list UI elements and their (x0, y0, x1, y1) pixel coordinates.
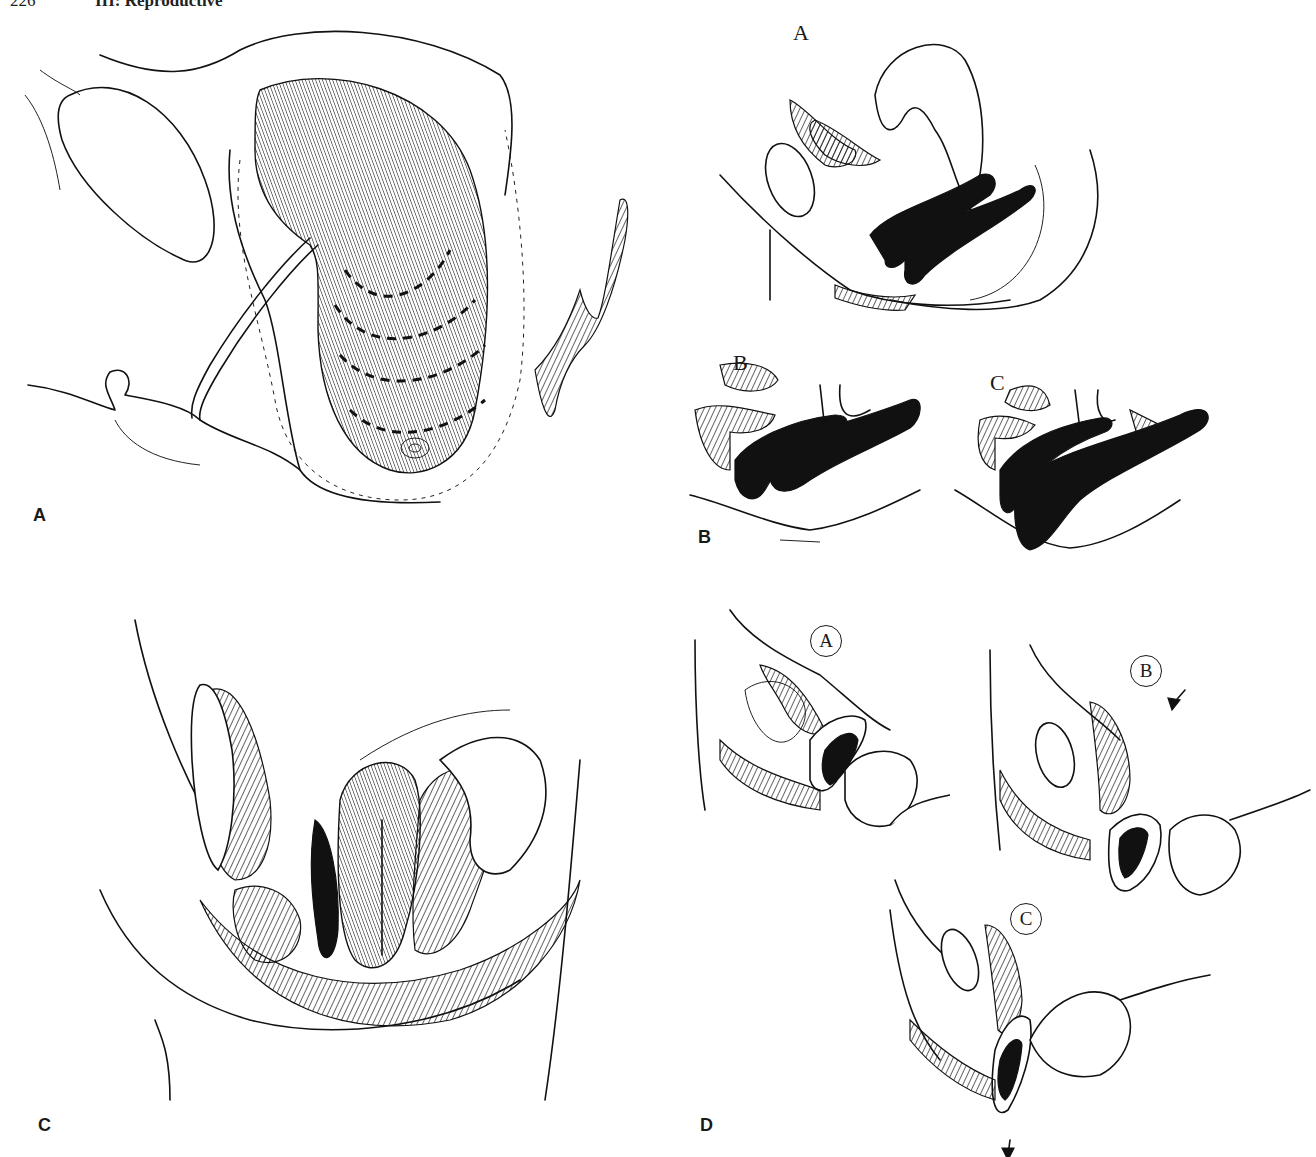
panel-c-drawing (0, 580, 660, 1157)
panel-d-illustration: A B C D (690, 580, 1316, 1157)
panel-d-sublabel-c: C (1010, 903, 1042, 935)
panel-label-d: D (700, 1115, 713, 1136)
panel-b-sub-a-drawing (720, 45, 1098, 311)
panel-b-sub-b-drawing (690, 363, 920, 542)
panel-label-a: A (33, 505, 46, 526)
panel-a-illustration: A (0, 0, 660, 520)
panel-b-sub-c-drawing (955, 386, 1208, 550)
panel-d-sublabel-b: B (1130, 655, 1162, 687)
panel-label-c: C (38, 1115, 51, 1136)
panel-b-sublabel-b: B (733, 350, 748, 376)
panel-d-sub-c-drawing (890, 880, 1210, 1157)
panel-a-drawing (0, 0, 660, 520)
panel-b-illustration: A B C B (690, 0, 1316, 560)
panel-label-b: B (698, 527, 711, 548)
panel-c-illustration: C (0, 580, 660, 1157)
panel-d-sublabel-a: A (810, 625, 842, 657)
panel-d-drawing (690, 580, 1316, 1157)
panel-b-sublabel-a: A (793, 20, 809, 46)
panel-b-drawing (690, 0, 1316, 560)
panel-b-sublabel-c: C (990, 370, 1005, 396)
